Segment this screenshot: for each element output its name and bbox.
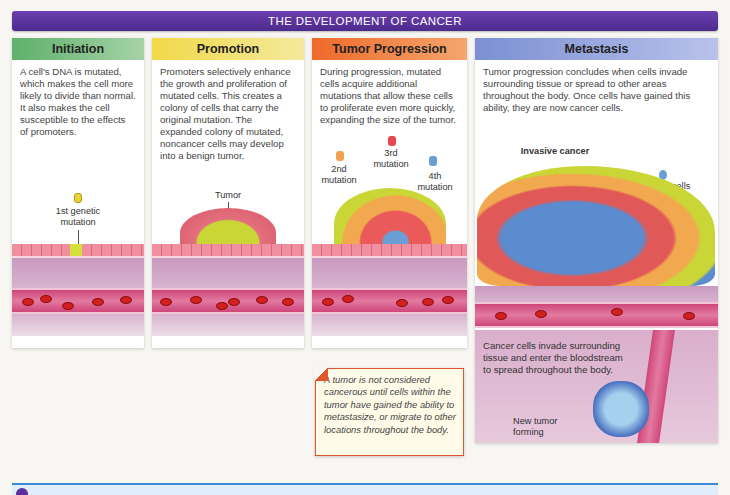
tissue-illustration xyxy=(312,244,467,336)
callout-text: A tumor is not considered cancerous unti… xyxy=(324,374,456,435)
label-1st-mutation: 1st genetic mutation xyxy=(42,206,114,228)
page-title: THE DEVELOPMENT OF CANCER xyxy=(12,11,718,31)
callout-note: A tumor is not considered cancerous unti… xyxy=(315,368,464,456)
4th-mutation-cell-icon xyxy=(429,156,437,166)
label-tumor: Tumor xyxy=(202,190,254,201)
tissue-illustration xyxy=(12,244,144,336)
panel-description: During progression, mutated cells acquir… xyxy=(312,60,467,126)
panel-heading: Promotion xyxy=(152,38,304,60)
footer-badge-icon xyxy=(16,488,28,495)
panel-metastasis: Metastasis Tumor progression concludes w… xyxy=(475,38,718,443)
panel-heading: Initiation xyxy=(12,38,144,60)
panel-heading: Metastasis xyxy=(475,38,718,60)
3rd-mutation-cell-icon xyxy=(388,136,396,146)
new-tumor-shape xyxy=(593,381,649,437)
folded-corner-icon xyxy=(314,367,328,381)
label-cancer-cells-invade: Cancer cells invade surrounding tissue a… xyxy=(483,340,623,376)
footer-bar xyxy=(12,483,718,495)
panel-heading: Tumor Progression xyxy=(312,38,467,60)
panel-promotion: Promotion Promoters selectively enhance … xyxy=(152,38,304,348)
panel-description: Tumor progression concludes when cells i… xyxy=(475,60,718,114)
mutated-cell-icon xyxy=(74,193,82,203)
panel-initiation: Initiation A cell's DNA is mutated, whic… xyxy=(12,38,144,348)
tissue-illustration xyxy=(152,244,304,336)
2nd-mutation-cell-icon xyxy=(336,151,344,161)
label-4th-mutation: 4th mutation xyxy=(412,171,458,193)
label-new-tumor-forming: New tumor forming xyxy=(513,416,569,438)
label-3rd-mutation: 3rd mutation xyxy=(368,148,414,170)
panel-description: Promoters selectively enhance the growth… xyxy=(152,60,304,162)
label-invasive-cancer: Invasive cancer xyxy=(515,146,595,157)
panel-description: A cell's DNA is mutated, which makes the… xyxy=(12,60,144,138)
leader-line xyxy=(78,230,79,244)
panel-tumor-progression: Tumor Progression During progression, mu… xyxy=(312,38,467,348)
tissue-illustration xyxy=(475,286,718,328)
label-2nd-mutation: 2nd mutation xyxy=(316,164,362,186)
